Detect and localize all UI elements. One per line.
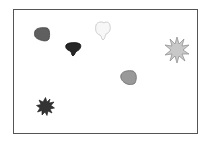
- light-starburst-shape[interactable]: [164, 36, 190, 64]
- dark-drip-blob-shape[interactable]: [65, 42, 82, 58]
- gray-blob-shape[interactable]: [33, 27, 51, 42]
- light-gray-blob-shape[interactable]: [120, 70, 138, 86]
- dark-starburst-shape[interactable]: [36, 97, 55, 116]
- white-drip-blob-shape[interactable]: [94, 21, 112, 42]
